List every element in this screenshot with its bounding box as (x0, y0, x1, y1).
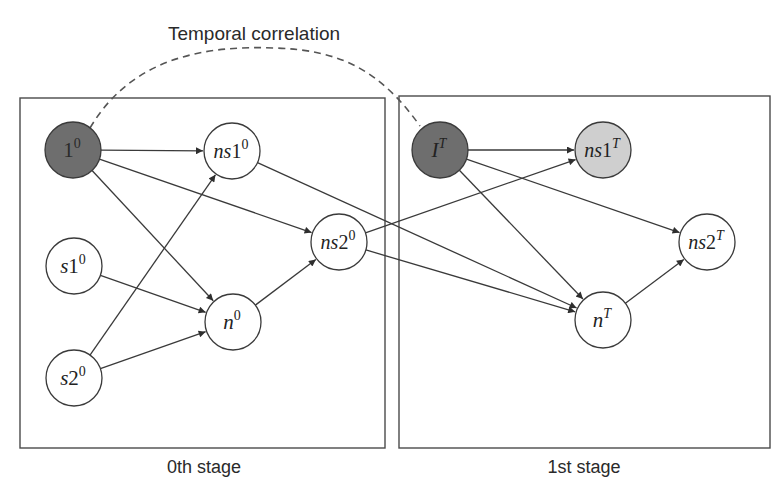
edge-1_0-to-ns2_0 (99, 159, 311, 232)
node-ns1_0: ns10 (204, 123, 260, 179)
node-s2_0: s20 (46, 350, 102, 406)
edge-ns2_0-to-ns1_T (365, 160, 575, 233)
edge-s2_0-to-ns1_0 (90, 175, 215, 355)
stage-1-label: 1st stage (547, 457, 620, 477)
edge-s2_0-to-n_0 (100, 332, 205, 369)
edge-I_T-to-n_T (459, 170, 583, 299)
bayesian-network-diagram: Temporal correlation 0th stage 1st stage… (0, 0, 781, 495)
node-ns2_T: ns2T (679, 214, 735, 270)
edge-ns1_0-to-n_T (257, 163, 576, 308)
edge-s1_0-to-n_0 (100, 275, 205, 312)
edge-1_0-to-ns1_0 (101, 150, 203, 151)
node-1_0: 10 (45, 122, 101, 178)
node-s1_0: s10 (46, 238, 102, 294)
edge-n_0-to-ns2_0 (255, 259, 316, 305)
node-I_T: IT (412, 122, 468, 178)
temporal-correlation-title: Temporal correlation (168, 23, 340, 44)
edge-n_T-to-ns2_T (625, 259, 683, 303)
node-n_0: n0 (205, 294, 261, 350)
node-ns1_T: ns1T (575, 122, 631, 178)
edge-1_0-to-n_0 (92, 171, 213, 301)
node-n_T: nT (575, 292, 631, 348)
node-ns2_0: ns20 (311, 214, 367, 270)
temporal-correlation-arc (90, 48, 420, 128)
edge-I_T-to-ns2_T (466, 159, 679, 232)
nodes-layer: 10ns10ns20s10n0s20ITns1Tns2TnT (45, 122, 735, 406)
stage-0-label: 0th stage (167, 457, 241, 477)
